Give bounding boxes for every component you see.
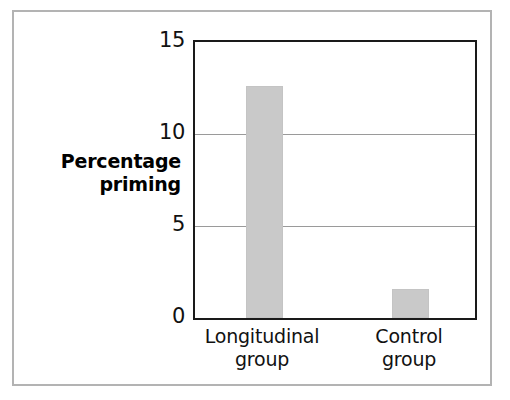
gridline-5 bbox=[195, 226, 475, 227]
y-tick-label-10: 10 bbox=[145, 122, 185, 143]
x-label-control-line-2: group bbox=[336, 348, 482, 371]
plot-area bbox=[193, 40, 477, 320]
chart-figure: Percentage priming 0 5 10 15 Longitudina… bbox=[0, 0, 510, 400]
y-axis-tick-labels: 0 5 10 15 bbox=[140, 40, 185, 320]
x-label-control-line-1: Control bbox=[336, 325, 482, 348]
x-label-longitudinal-line-1: Longitudinal bbox=[186, 325, 338, 348]
bar-control-group bbox=[392, 289, 429, 318]
y-tick-label-0: 0 bbox=[145, 306, 185, 327]
y-tick-label-5: 5 bbox=[145, 214, 185, 235]
bar-longitudinal-group bbox=[246, 86, 283, 318]
gridline-10 bbox=[195, 134, 475, 135]
y-tick-label-15: 15 bbox=[145, 30, 185, 51]
x-axis-category-labels: Longitudinal group Control group bbox=[193, 325, 477, 385]
x-label-longitudinal-line-2: group bbox=[186, 348, 338, 371]
x-label-longitudinal-group: Longitudinal group bbox=[186, 325, 338, 371]
x-label-control-group: Control group bbox=[336, 325, 482, 371]
